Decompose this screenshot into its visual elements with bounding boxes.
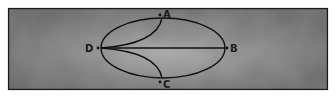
label-a: A — [163, 9, 171, 20]
label-b: B — [230, 43, 238, 54]
point-a-dot — [159, 14, 162, 17]
point-b-dot — [226, 47, 229, 50]
point-d-dot — [97, 47, 100, 50]
label-c: C — [163, 79, 170, 90]
point-c-dot — [159, 81, 162, 84]
diagram-canvas: A B C D — [0, 0, 336, 96]
label-d: D — [85, 43, 93, 54]
diagram-svg: A B C D — [0, 0, 336, 96]
